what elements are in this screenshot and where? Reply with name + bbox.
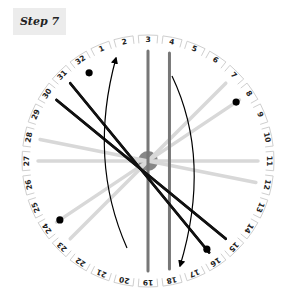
slot-number-19: 19: [143, 278, 153, 287]
threads: [38, 51, 258, 271]
slot-number-3: 3: [145, 35, 150, 44]
marker-dot: [233, 99, 240, 106]
marker-dot: [86, 69, 93, 76]
marker-dot: [56, 216, 63, 223]
kumihimo-disk: 1234567891011121314151617181920212223242…: [0, 0, 288, 304]
slot-number-11: 11: [265, 156, 274, 166]
slot-number-27: 27: [22, 156, 31, 166]
marker-dot: [203, 246, 210, 253]
